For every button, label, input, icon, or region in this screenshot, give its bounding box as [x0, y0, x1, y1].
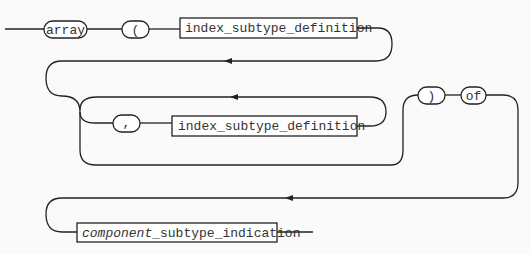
- syntax-diagram: array ( index_subtype_definition , index…: [0, 0, 531, 254]
- terminal-of-label: of: [466, 89, 482, 104]
- terminal-comma-label: ,: [123, 116, 131, 131]
- row-3: component_subtype_indication: [77, 223, 313, 242]
- component-suffix: _subtype_indication: [151, 226, 300, 241]
- arrow-left-icon: [285, 195, 293, 201]
- terminal-rparen-label: ): [428, 89, 436, 104]
- repetition-loop: , index_subtype_definition: [62, 94, 420, 165]
- row-1: array ( index_subtype_definition: [5, 18, 392, 96]
- arrow-left-icon: [230, 94, 238, 100]
- nonterminal-component-label: component_subtype_indication: [82, 226, 300, 241]
- loop-entry-path: [62, 96, 113, 123]
- arrow-left-icon: [224, 58, 232, 64]
- nonterminal-index-def-2-label: index_subtype_definition: [178, 119, 365, 134]
- terminal-lparen-label: (: [132, 23, 140, 38]
- component-prefix: component: [82, 226, 152, 241]
- terminal-array-label: array: [46, 23, 85, 38]
- close-of-group: ) of: [46, 87, 518, 232]
- nonterminal-index-def-1-label: index_subtype_definition: [185, 21, 372, 36]
